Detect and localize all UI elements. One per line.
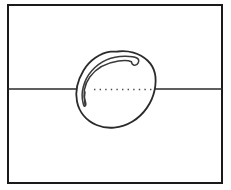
- egg-inner-tail-curve: [84, 92, 85, 105]
- figure-canvas: [0, 0, 231, 190]
- egg-outline: [76, 51, 155, 128]
- figure-container: [0, 0, 231, 190]
